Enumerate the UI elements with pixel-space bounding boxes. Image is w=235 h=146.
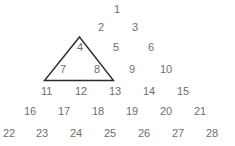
number-cell: 13	[109, 86, 121, 97]
number-cell: 6	[148, 42, 154, 53]
number-cell: 2	[98, 22, 104, 33]
number-cell: 4	[77, 42, 83, 53]
number-cell: 1	[114, 4, 120, 15]
number-cell: 28	[206, 128, 218, 139]
number-cell: 25	[104, 128, 116, 139]
number-cell: 20	[160, 106, 172, 117]
number-cell: 9	[129, 64, 135, 75]
number-cell: 16	[24, 106, 36, 117]
number-cell: 10	[160, 64, 172, 75]
number-cell: 12	[75, 86, 87, 97]
number-cell: 15	[177, 86, 189, 97]
number-cell: 5	[113, 42, 119, 53]
number-cell: 8	[94, 64, 100, 75]
number-cell: 21	[194, 106, 206, 117]
number-cell: 14	[143, 86, 155, 97]
number-cell: 17	[58, 106, 70, 117]
number-cell: 18	[92, 106, 104, 117]
number-cell: 22	[3, 128, 15, 139]
number-cell: 19	[126, 106, 138, 117]
number-cell: 11	[41, 86, 52, 97]
number-cell: 3	[132, 22, 138, 33]
number-cell: 23	[36, 128, 48, 139]
number-cell: 27	[172, 128, 184, 139]
triangle-outline-layer	[0, 0, 235, 146]
number-cell: 26	[138, 128, 150, 139]
number-cell: 7	[60, 64, 66, 75]
figure-canvas: 1234567891011121314151617181920212223242…	[0, 0, 235, 146]
number-cell: 24	[70, 128, 82, 139]
